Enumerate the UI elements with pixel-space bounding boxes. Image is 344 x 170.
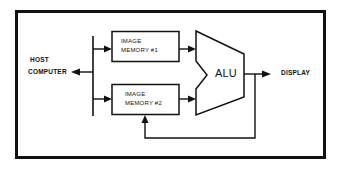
mem1-to-alu-arrow	[188, 46, 196, 53]
bus-to-mem1-arrow	[104, 46, 112, 53]
diagram-canvas	[0, 0, 344, 170]
memory1-label-line1: IMAGE	[121, 37, 141, 45]
memory2-label-line2: MEMORY #2	[125, 99, 162, 107]
alu-label: ALU	[215, 68, 237, 79]
host-label-line1: HOST	[30, 57, 49, 64]
display-label: DISPLAY	[281, 70, 310, 77]
host-label-line2: COMPUTER	[28, 69, 67, 76]
mem2-to-alu-arrow	[188, 96, 196, 103]
bus-to-mem2-arrow	[104, 96, 112, 103]
memory2-label-line1: IMAGE	[125, 90, 145, 98]
host-arrow-head	[71, 69, 80, 76]
feedback-arrow-head	[142, 115, 149, 123]
memory1-label-line2: MEMORY #1	[121, 46, 158, 54]
alu-to-display-arrow	[262, 71, 271, 78]
